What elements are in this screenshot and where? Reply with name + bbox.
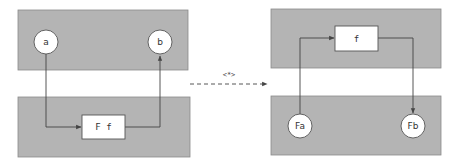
transform-arrow: <*>: [190, 71, 267, 84]
node-Fa-label: Fa: [295, 121, 305, 131]
node-Fb-label: Fb: [408, 121, 419, 131]
node-b: b: [148, 30, 172, 54]
node-Fb: Fb: [401, 114, 425, 138]
left-diagram: a b F f: [18, 10, 190, 157]
functor-lifting-diagram: a b F f <*> f Fa Fb: [0, 0, 458, 166]
node-Fa: Fa: [288, 114, 312, 138]
node-a-label: a: [43, 37, 49, 47]
node-a: a: [34, 30, 58, 54]
function-box-f: f: [335, 26, 378, 51]
transform-arrow-label: <*>: [223, 71, 236, 79]
function-box-Ff-label: F f: [95, 122, 111, 132]
function-box-Ff: F f: [82, 115, 125, 139]
node-b-label: b: [157, 37, 163, 47]
right-diagram: f Fa Fb: [271, 9, 441, 155]
function-box-f-label: f: [354, 34, 359, 44]
